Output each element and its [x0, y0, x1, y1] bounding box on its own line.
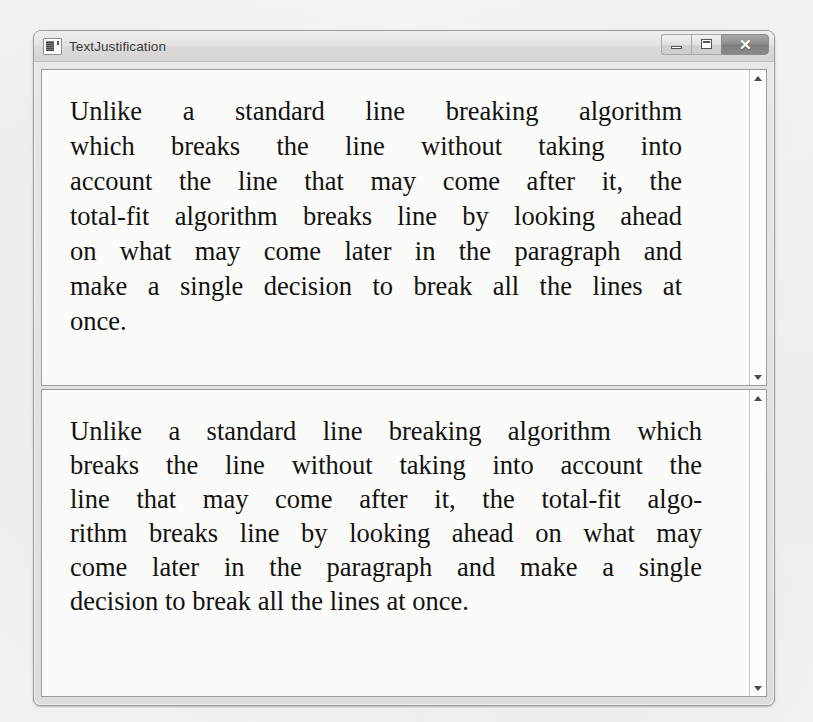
text-area-bottom[interactable]: Unlike a standard line breaking algorith…: [42, 390, 749, 696]
text-line: account the line that may come after it,…: [70, 164, 682, 199]
text-panel-justified: Unlike a standard line breaking algorith…: [41, 69, 767, 386]
maximize-button[interactable]: [691, 34, 721, 55]
scroll-up-arrow-icon[interactable]: [750, 70, 767, 87]
scroll-track-top[interactable]: [750, 87, 767, 368]
title-bar[interactable]: TextJustification ✕: [34, 31, 774, 62]
client-area: Unlike a standard line breaking algorith…: [34, 62, 774, 705]
scroll-track-bottom[interactable]: [750, 407, 767, 679]
minimize-button[interactable]: [661, 34, 691, 55]
scrollbar-top[interactable]: [749, 70, 766, 385]
text-line: which breaks the line without taking int…: [70, 129, 682, 164]
text-line: line that may come after it, the total-f…: [70, 482, 702, 516]
text-line: total-fit algorithm breaks line by looki…: [70, 199, 682, 234]
scroll-down-arrow-icon[interactable]: [750, 368, 767, 385]
paragraph-hyphenated: Unlike a standard line breaking algorith…: [70, 414, 702, 618]
paragraph-justified: Unlike a standard line breaking algorith…: [70, 94, 682, 339]
text-line: rithm breaks line by looking ahead on wh…: [70, 516, 702, 550]
close-button[interactable]: ✕: [721, 34, 769, 55]
application-icon: [43, 38, 62, 55]
text-line: come later in the paragraph and make a s…: [70, 550, 702, 584]
scroll-up-arrow-icon[interactable]: [750, 390, 767, 407]
window-title: TextJustification: [69, 39, 166, 54]
window-controls: ✕: [661, 34, 769, 55]
scrollbar-bottom[interactable]: [749, 390, 766, 696]
close-icon: ✕: [722, 35, 768, 54]
text-line: Unlike a standard line breaking algorith…: [70, 94, 682, 129]
text-line: decision to break all the lines at once.: [70, 584, 702, 618]
application-window: TextJustification ✕ Unlike a standard li…: [33, 30, 775, 706]
scroll-down-arrow-icon[interactable]: [750, 679, 767, 696]
text-panel-hyphenated: Unlike a standard line breaking algorith…: [41, 389, 767, 697]
minimize-icon: [671, 46, 682, 49]
text-area-top[interactable]: Unlike a standard line breaking algorith…: [42, 70, 749, 385]
text-line: make a single decision to break all the …: [70, 269, 682, 304]
maximize-icon: [701, 39, 712, 49]
text-line: once.: [70, 304, 682, 339]
text-line: on what may come later in the paragraph …: [70, 234, 682, 269]
text-line: breaks the line without taking into acco…: [70, 448, 702, 482]
text-line: Unlike a standard line breaking algorith…: [70, 414, 702, 448]
